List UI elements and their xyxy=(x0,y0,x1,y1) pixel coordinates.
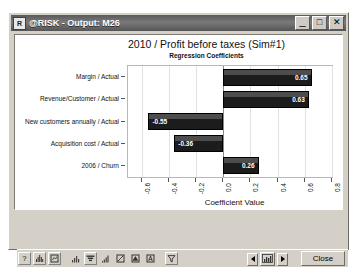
window-titlebar[interactable]: R @RISK - Output: M26 _ □ ✕ xyxy=(11,15,346,31)
y-axis-tickmark xyxy=(121,143,125,144)
svg-text:A: A xyxy=(148,255,153,262)
x-axis-tickmark xyxy=(277,178,278,182)
x-axis-tickmark xyxy=(249,178,250,182)
chart-subtitle: Regression Coefficients xyxy=(15,52,342,59)
cumulative-chart-icon[interactable] xyxy=(99,252,112,265)
x-axis-tick-label: -0.6 xyxy=(144,183,151,194)
statistics-icon[interactable]: A xyxy=(144,252,157,265)
window-controls: _ □ ✕ xyxy=(295,16,344,30)
chevron-left-icon xyxy=(251,256,255,262)
bar[interactable]: 0.65 xyxy=(223,69,311,86)
x-axis-tick-label: -0.4 xyxy=(171,183,178,194)
scatter-chart-icon[interactable] xyxy=(114,252,127,265)
thumbnail-icon[interactable] xyxy=(260,252,275,266)
summary-chart-icon[interactable] xyxy=(129,252,142,265)
x-axis-tickmark xyxy=(168,178,169,182)
toolbar-left-group: ? xyxy=(17,252,61,265)
bar-value-label: -0.36 xyxy=(175,140,193,147)
bar-value-label: 0.26 xyxy=(242,162,258,169)
y-axis-tick-label: New customers annually / Actual xyxy=(25,117,119,124)
next-chart-button[interactable] xyxy=(277,253,288,266)
bar-value-label: 0.63 xyxy=(292,96,308,103)
toolbar-filter-group xyxy=(164,252,178,265)
maximize-button[interactable]: □ xyxy=(312,16,327,30)
prev-chart-button[interactable] xyxy=(247,253,258,266)
gridline-vertical xyxy=(142,66,143,177)
toolbar-chart-group: A xyxy=(68,252,157,265)
tornado-chart-icon[interactable] xyxy=(84,252,97,265)
bar[interactable]: -0.55 xyxy=(148,113,223,130)
chart-title-text: 2010 / Profit before taxes (Sim#1) xyxy=(72,38,285,50)
risk-output-window: R @RISK - Output: M26 _ □ ✕ 2010 / Profi… xyxy=(8,12,349,250)
y-axis-labels: Margin / ActualRevenue/Customer / Actual… xyxy=(15,65,125,178)
bottom-toolbar: ? xyxy=(17,249,348,267)
x-axis-tick-label: 0.4 xyxy=(280,183,287,192)
x-axis-tick-label: -0.2 xyxy=(198,183,205,194)
x-axis-tickmark xyxy=(195,178,196,182)
x-axis-tick-label: 0.2 xyxy=(252,183,259,192)
close-button[interactable]: Close xyxy=(301,251,345,266)
y-axis-tickmark xyxy=(121,98,125,99)
gridline-vertical xyxy=(332,66,333,177)
bar-value-label: 0.65 xyxy=(295,74,311,81)
bar-chart-icon[interactable] xyxy=(69,252,82,265)
x-axis-tickmark xyxy=(141,178,142,182)
y-axis-tick-label: Acquisition cost / Actual xyxy=(51,139,119,146)
minimize-button[interactable]: _ xyxy=(295,16,310,30)
x-axis-tickmark xyxy=(222,178,223,182)
y-axis-tickmark xyxy=(121,76,125,77)
y-axis-tickmark xyxy=(121,165,125,166)
window-client-area: 2010 / Profit before taxes (Sim#1) Regre… xyxy=(13,33,344,227)
close-window-button[interactable]: ✕ xyxy=(329,16,344,30)
x-axis-tick-label: 0.0 xyxy=(225,183,232,192)
bar-value-label: -0.55 xyxy=(149,118,167,125)
minimize-icon: _ xyxy=(296,17,309,29)
histogram-icon[interactable] xyxy=(33,252,46,265)
plot-area: 0.650.63-0.55-0.360.26 xyxy=(127,65,333,178)
y-axis-tick-label: 2006 / Churn xyxy=(81,161,119,168)
thumbnail-navigation xyxy=(247,252,288,266)
chart-title: 2010 / Profit before taxes (Sim#1) xyxy=(15,38,342,50)
y-axis-tick-label: Revenue/Customer / Actual xyxy=(40,95,119,102)
y-axis-tick-label: Margin / Actual xyxy=(76,73,119,80)
bar[interactable]: 0.63 xyxy=(223,91,309,108)
bar[interactable]: 0.26 xyxy=(223,157,258,174)
help-icon[interactable]: ? xyxy=(18,252,31,265)
filter-icon[interactable] xyxy=(165,252,178,265)
chart-canvas: 2010 / Profit before taxes (Sim#1) Regre… xyxy=(14,34,343,210)
x-axis-title: Coefficient Value xyxy=(127,198,342,207)
svg-text:?: ? xyxy=(23,255,27,262)
chevron-right-icon xyxy=(281,256,285,262)
close-icon: ✕ xyxy=(330,17,343,29)
x-axis-tick-label: 0.8 xyxy=(334,183,341,192)
x-axis-tick-label: 0.6 xyxy=(307,183,314,192)
chart-subtitle-text: Regression Coefficients xyxy=(113,52,243,59)
maximize-icon: □ xyxy=(313,17,326,29)
y-axis-tickmark xyxy=(121,121,125,122)
bar[interactable]: -0.36 xyxy=(174,135,223,152)
x-axis-tickmark xyxy=(331,178,332,182)
report-icon[interactable] xyxy=(48,252,61,265)
risk-app-icon: R xyxy=(13,17,26,30)
x-axis-tickmark xyxy=(304,178,305,182)
window-title: @RISK - Output: M26 xyxy=(29,18,120,28)
